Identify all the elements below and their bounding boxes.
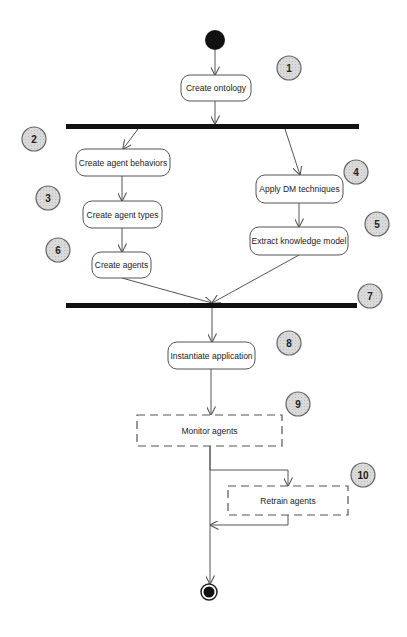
step-marker-5: 5	[365, 212, 389, 236]
step-marker-10: 10	[351, 463, 375, 487]
step-marker-6: 6	[46, 238, 70, 262]
activity-label: Retrain agents	[260, 496, 315, 506]
edge-fork-bar-to-apply-dm-techniques	[285, 129, 300, 175]
step-number: 5	[374, 219, 380, 230]
activity-label: Create ontology	[186, 83, 247, 93]
activity-monitor-agents: Monitor agents	[137, 415, 282, 446]
fork-bar	[66, 124, 359, 129]
activity-extract-knowledge-model: Extract knowledge model	[250, 227, 348, 255]
activity-label: Monitor agents	[181, 426, 237, 436]
step-marker-2: 2	[22, 127, 46, 151]
activity-instantiate-application: Instantiate application	[168, 342, 255, 369]
activity-diagram: Create ontologyCreate agent behaviorsCre…	[0, 0, 407, 637]
edge-retrain-agents-to-flow-line	[210, 515, 288, 525]
join-bar	[66, 303, 357, 308]
step-marker-4: 4	[344, 160, 368, 184]
activity-create-ontology: Create ontology	[181, 75, 251, 101]
edge-monitor-agents-to-retrain-agents	[210, 446, 288, 486]
activity-create-agent-behaviors: Create agent behaviors	[76, 149, 170, 176]
step-marker-1: 1	[277, 56, 301, 80]
activity-nodes: Create ontologyCreate agent behaviorsCre…	[76, 75, 348, 515]
activity-create-agent-types: Create agent types	[83, 201, 162, 228]
step-number: 9	[295, 399, 301, 410]
step-number: 7	[367, 291, 373, 302]
step-number: 8	[286, 338, 292, 349]
end-node	[201, 584, 217, 600]
step-marker-7: 7	[358, 284, 382, 308]
edge-extract-knowledge-model-to-join-bar	[212, 255, 299, 303]
step-marker-8: 8	[277, 331, 301, 355]
activity-apply-dm-techniques: Apply DM techniques	[256, 175, 343, 203]
step-number: 3	[45, 193, 51, 204]
activity-label: Create agents	[95, 260, 148, 270]
edge-create-agents-to-join-bar	[122, 278, 212, 303]
step-number: 2	[31, 134, 37, 145]
edge-fork-bar-to-create-agent-behaviors	[123, 129, 138, 149]
step-marker-9: 9	[286, 392, 310, 416]
activity-label: Extract knowledge model	[252, 236, 347, 246]
activity-label: Instantiate application	[170, 351, 252, 361]
step-number: 4	[353, 167, 359, 178]
activity-retrain-agents: Retrain agents	[228, 486, 348, 515]
activity-label: Apply DM techniques	[259, 184, 339, 194]
step-number: 6	[55, 245, 61, 256]
step-marker-3: 3	[36, 186, 60, 210]
activity-create-agents: Create agents	[92, 252, 151, 278]
step-number: 1	[286, 63, 292, 74]
step-number: 10	[357, 470, 369, 481]
activity-label: Create agent types	[87, 210, 159, 220]
activity-label: Create agent behaviors	[79, 158, 167, 168]
start-node	[205, 30, 225, 50]
